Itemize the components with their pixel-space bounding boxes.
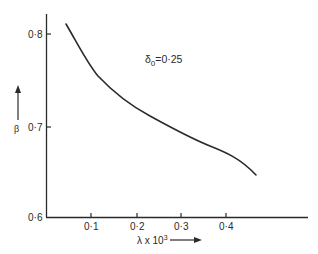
y-tick-label-0.8: 0·8 [28, 29, 43, 40]
curve-annotation: δ0=0·25 [145, 53, 183, 68]
x-tick-label-0.1: 0·1 [84, 221, 99, 232]
x-axis-arrowhead-icon [194, 237, 202, 243]
x-tick-label-0.3: 0·3 [174, 221, 189, 232]
chart: 0·8 0·7 0·6 0·1 0·2 0·3 0·4 β λ x 103 δ0… [0, 0, 318, 254]
x-tick-label-0.2: 0·2 [130, 221, 145, 232]
y-axis-label: β [14, 124, 19, 134]
x-axis-label: λ x 103 [137, 234, 168, 246]
y-axis-arrowhead-icon [15, 85, 21, 93]
x-tick-label-0.4: 0·4 [219, 221, 234, 232]
y-tick-label-0.7: 0·7 [28, 122, 43, 133]
data-curve [66, 24, 256, 175]
y-tick-label-0.6: 0·6 [28, 212, 43, 223]
